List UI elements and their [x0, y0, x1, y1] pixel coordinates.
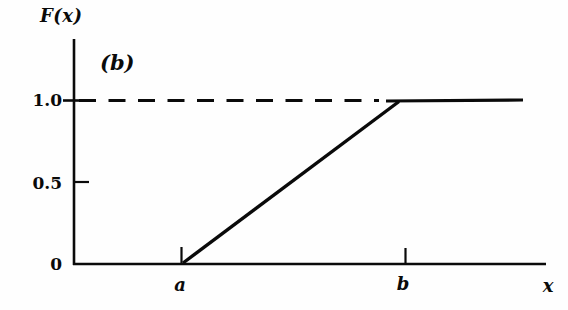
x-axis-label: x: [533, 275, 563, 296]
y-tick-label-0: 0: [14, 254, 62, 274]
y-tick-label-0.5: 0.5: [14, 173, 62, 193]
y-axis-title: F(x): [40, 5, 83, 26]
cdf-figure: F(x) (b) 1.0 0.5 0 a b x: [0, 0, 568, 310]
cdf-flat-segment: [386, 100, 523, 101]
y-tick-label-1.0: 1.0: [14, 90, 62, 110]
x-tick-label-b: b: [388, 273, 418, 294]
panel-label: (b): [100, 50, 135, 75]
x-tick-label-a: a: [165, 274, 195, 295]
chart-canvas: [0, 0, 568, 310]
cdf-rising-segment: [183, 102, 399, 264]
